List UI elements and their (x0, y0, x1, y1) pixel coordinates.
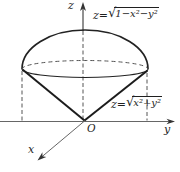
z-axis-label: z (68, 0, 74, 11)
x-axis-label: x (28, 144, 34, 155)
cone-equation-lhs: z= (111, 99, 126, 110)
cone-equation-radicand: x²+y² (132, 96, 162, 108)
cone-hemisphere-figure: z y x O z= √ 1−x²−y² z= √ x²+y² (0, 0, 180, 172)
rim-ellipse-back-arc (22, 61, 148, 70)
diagram-canvas (0, 0, 180, 172)
y-axis-label: y (164, 124, 170, 135)
x-axis-line (41, 121, 85, 158)
cone-equation: z= √ x²+y² (111, 96, 162, 109)
hemisphere-equation: z= √ 1−x²−y² (93, 7, 159, 20)
rim-ellipse-front-arc (22, 69, 148, 78)
hemisphere-equation-lhs: z= (93, 10, 108, 21)
hemisphere-equation-radicand: 1−x²−y² (114, 7, 158, 19)
origin-label: O (87, 123, 96, 134)
